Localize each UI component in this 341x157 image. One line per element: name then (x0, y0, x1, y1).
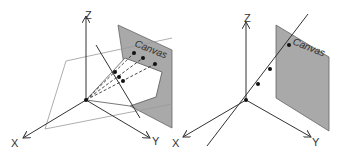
left-diagram: Z X Y Canvas (11, 9, 172, 149)
x-axis (23, 100, 86, 138)
projection-diagram: Z X Y Canvas Z X Y Canvas (0, 0, 341, 157)
z-label: Z (85, 9, 92, 21)
z-label: Z (244, 12, 251, 24)
right-diagram: Z X Y Canvas (172, 12, 329, 149)
y-label: Y (152, 135, 160, 147)
diagram-canvas: Z X Y Canvas Z X Y Canvas (0, 0, 341, 157)
y-label: Y (312, 136, 320, 148)
x-axis (183, 100, 246, 137)
x-label: X (172, 137, 180, 149)
x-label: X (11, 137, 19, 149)
